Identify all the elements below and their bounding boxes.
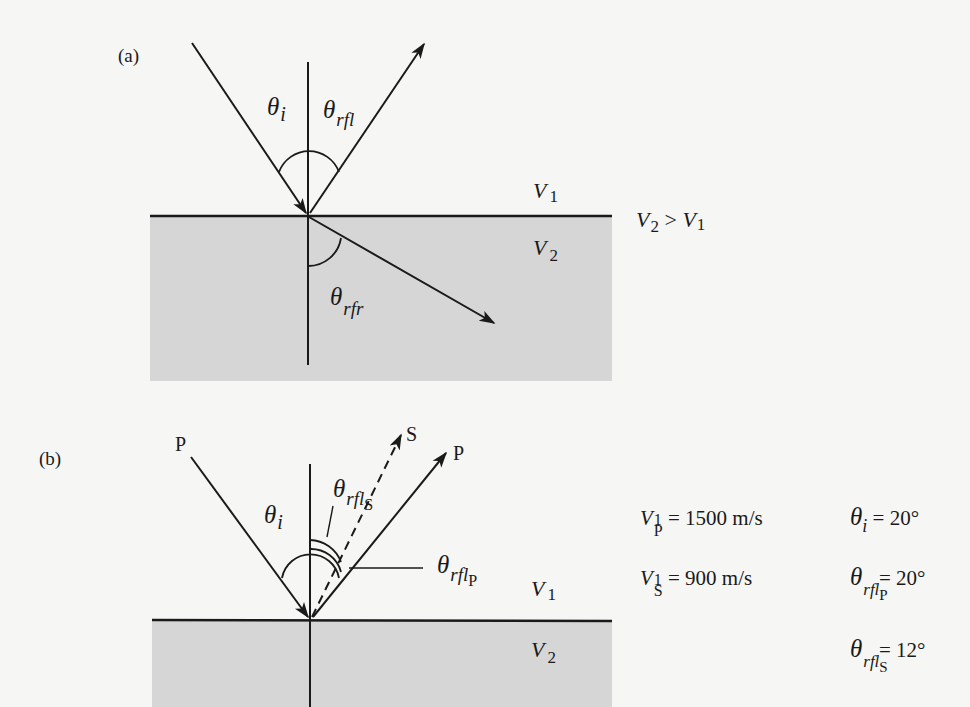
v1p-parameter: V1P = 1500 m/s xyxy=(640,506,763,539)
layer-2-region xyxy=(152,620,612,707)
panel-a: (a) θi θrfl θrfr V1 V2 V2 > V1 xyxy=(118,43,705,381)
v1s-parameter: V1S = 900 m/s xyxy=(640,566,752,599)
reflected-p-label: P xyxy=(453,442,464,464)
interface-line xyxy=(152,620,612,621)
reflection-refraction-diagram: (a) θi θrfl θrfr V1 V2 V2 > V1 (b) xyxy=(0,0,970,707)
theta-i-label: θi xyxy=(264,501,283,533)
theta-rfl-label: θrfl xyxy=(323,96,354,130)
panel-a-label: (a) xyxy=(118,45,139,67)
reflected-s-label: S xyxy=(406,423,417,445)
theta-i-label: θi xyxy=(267,93,286,125)
layer-1-velocity-label: V1 xyxy=(533,178,558,206)
panel-b: (b) P P S θi θrflS θrflP V1 V2 V1P = xyxy=(39,423,925,707)
theta-rfl-s-label: θrflS xyxy=(333,475,373,513)
theta-rfl-p-label: θrflP xyxy=(437,551,477,589)
panel-b-label: (b) xyxy=(39,448,61,470)
incident-ray xyxy=(192,43,306,213)
incident-p-label: P xyxy=(175,433,186,455)
theta-rfl-s-leader xyxy=(327,506,333,537)
reflected-ray xyxy=(310,44,424,213)
incident-p-ray xyxy=(191,457,308,617)
theta-i-value: θi = 20° xyxy=(850,503,919,536)
theta-rfl-p-value: θrflP = 20° xyxy=(850,563,925,603)
theta-rfl-s-value: θrflS = 12° xyxy=(850,635,925,675)
layer-1-velocity-label: V1 xyxy=(531,576,556,604)
velocity-condition-label: V2 > V1 xyxy=(636,207,705,236)
